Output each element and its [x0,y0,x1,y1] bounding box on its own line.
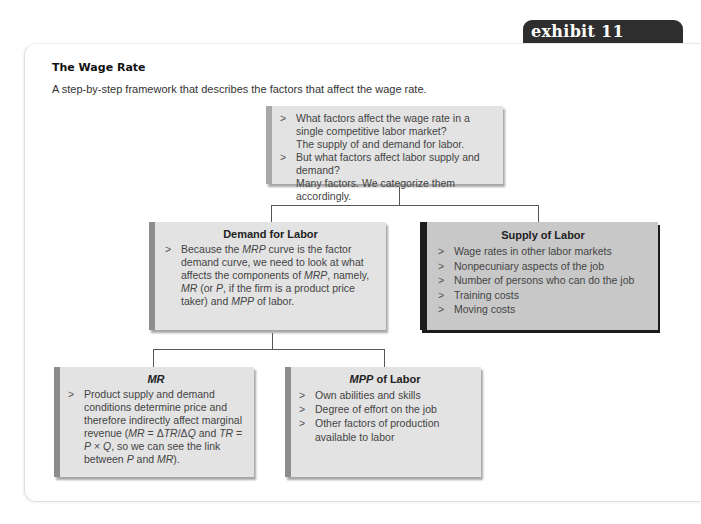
list-item: Moving costs [436,302,650,317]
list-item: Degree of effort on the job [297,402,473,416]
box-heading: MR [66,373,246,386]
list-item: Wage rates in other labor markets [436,244,650,259]
connector-line [271,205,539,206]
connector-line [384,349,385,367]
list-item: Other factors of production available to… [297,416,473,444]
demand-for-labor-box: Demand for Labor Because the MRP curve i… [149,222,386,330]
mpp-of-labor-box: MPP of Labor Own abilities and skills De… [285,367,481,477]
box-accent-bar [420,222,427,330]
box-accent-bar [285,367,291,477]
page-title: The Wage Rate [52,61,146,74]
list-item: Nonpecuniary aspects of the job [436,259,650,274]
list-item: Own abilities and skills [297,388,473,402]
top-question-box: What factors affect the wage rate in a s… [266,106,503,184]
box-accent-bar [266,106,272,184]
box-heading: Demand for Labor [163,228,378,241]
list-item: What factors affect the wage rate in a s… [278,112,495,151]
box-heading: Supply of Labor [436,229,650,242]
exhibit-tab: exhibit 11 [523,20,683,43]
page-subtitle: A step-by-step framework that describes … [52,83,427,95]
connector-line [399,187,400,205]
connector-line [271,205,272,222]
connector-line [272,333,273,349]
box-accent-bar [149,222,155,330]
exhibit-label: exhibit 11 [531,22,624,41]
supply-of-labor-box: Supply of Labor Wage rates in other labo… [420,222,658,330]
list-item: Training costs [436,288,650,303]
connector-line [153,349,154,367]
list-item: Product supply and demand conditions det… [66,388,246,466]
mr-box: MR Product supply and demand conditions … [54,367,254,477]
list-item: Number of persons who can do the job [436,273,650,288]
list-item: Because the MRP curve is the factor dema… [163,243,378,308]
list-item: But what factors affect labor supply and… [278,151,495,203]
connector-line [153,349,385,350]
box-heading: MPP of Labor [297,373,473,386]
box-accent-bar [54,367,60,477]
connector-line [538,205,539,222]
frame-divider [520,43,700,44]
